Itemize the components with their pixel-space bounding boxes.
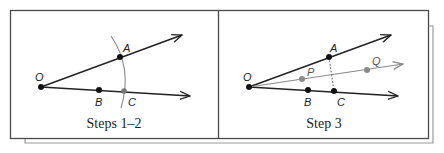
label-B: B bbox=[304, 96, 311, 108]
label-O: O bbox=[243, 71, 252, 83]
label-A: A bbox=[329, 42, 337, 54]
label-A: A bbox=[122, 42, 130, 54]
point-P bbox=[299, 76, 305, 82]
point-Q bbox=[364, 67, 370, 73]
label-C: C bbox=[128, 96, 136, 108]
caption-step-3: Step 3 bbox=[306, 116, 341, 131]
point-C bbox=[331, 88, 337, 94]
point-B bbox=[305, 87, 311, 93]
point-O bbox=[38, 84, 44, 90]
point-A bbox=[326, 54, 332, 60]
label-C: C bbox=[337, 96, 345, 108]
point-A bbox=[117, 54, 123, 60]
point-C bbox=[121, 88, 127, 94]
geometry-figure: O A B C Steps 1–2 O A B C P Q Step 3 bbox=[0, 0, 444, 153]
label-B: B bbox=[95, 96, 102, 108]
label-O: O bbox=[35, 71, 44, 83]
caption-steps-1-2: Steps 1–2 bbox=[87, 116, 142, 131]
point-B bbox=[96, 87, 102, 93]
label-Q: Q bbox=[372, 55, 381, 67]
point-O bbox=[246, 84, 252, 90]
label-P: P bbox=[307, 66, 315, 78]
